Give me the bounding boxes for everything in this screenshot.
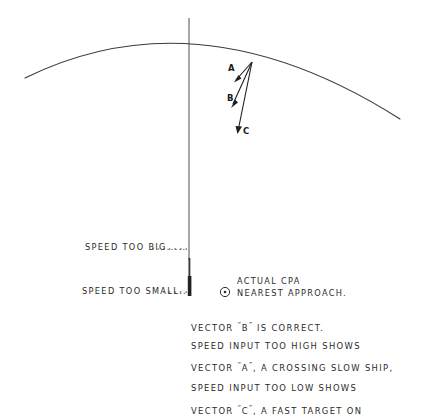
caption-line-1: VECTOR “B” IS CORRECT. (191, 321, 324, 333)
caption-line-4: SPEED INPUT TOO LOW SHOWS (191, 383, 357, 393)
vector-a-arrow (234, 62, 252, 83)
speed-too-big-label: SPEED TOO BIG..... (85, 243, 187, 252)
vector-c-label: C (243, 126, 250, 136)
vector-a-label: A (228, 63, 235, 73)
caption-line-5: VECTOR “C”, A FAST TARGET ON (191, 404, 362, 416)
vector-c-arrow (236, 62, 253, 134)
speed-too-small-label: SPEED TOO SMALL... (82, 287, 191, 296)
cpa-legend: ACTUAL CPA NEAREST APPROACH. (237, 275, 347, 299)
cpa-legend-line-2: NEAREST APPROACH. (237, 287, 347, 299)
radar-plot-figure (0, 0, 421, 420)
caption-line-3: VECTOR “A”, A CROSSING SLOW SHIP, (191, 361, 393, 373)
vector-b-label: B (227, 93, 234, 103)
range-ring-arc (25, 43, 400, 119)
caption-line-2: SPEED INPUT TOO HIGH SHOWS (191, 341, 361, 351)
cpa-circled-dot-icon (220, 287, 229, 296)
cpa-legend-line-1: ACTUAL CPA (237, 275, 347, 287)
